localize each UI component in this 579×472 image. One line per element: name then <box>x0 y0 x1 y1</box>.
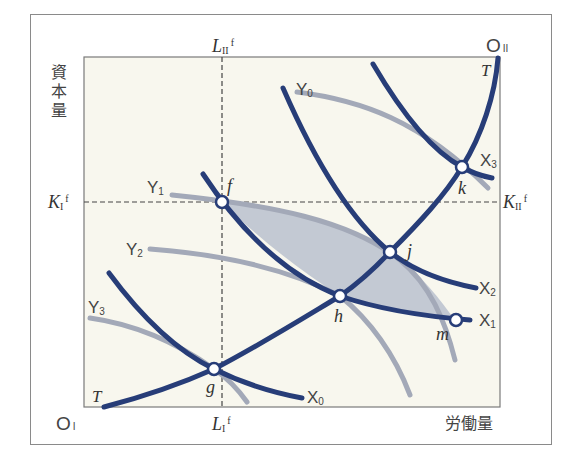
point-m <box>450 314 462 326</box>
point-j <box>384 246 396 258</box>
edgeworth-box-diagram: 資 本 量 労働量 OI OII LIIf LIf KIf KIIf T T X… <box>0 0 579 472</box>
label-L-II-f: LIIf <box>211 36 235 56</box>
point-g <box>208 363 220 375</box>
point-f <box>216 196 228 208</box>
label-point-j: j <box>405 241 412 261</box>
label-point-k: k <box>458 178 467 198</box>
point-k <box>456 161 468 173</box>
label-K-II-f: KIIf <box>502 192 528 212</box>
label-point-m: m <box>436 324 449 344</box>
origin-II-label: OII <box>486 35 508 56</box>
point-h <box>334 290 346 302</box>
label-L-I-f: LIf <box>211 414 231 434</box>
label-T-bottom: T <box>92 387 103 406</box>
label-point-h: h <box>334 306 343 326</box>
y-axis-label-char2: 本 <box>51 82 67 101</box>
y-axis-label-char1: 資 <box>51 63 67 82</box>
x-axis-label: 労働量 <box>445 414 493 433</box>
origin-I-label: OI <box>56 413 76 434</box>
label-T-top: T <box>481 61 492 80</box>
y-axis-label-char3: 量 <box>51 101 67 120</box>
label-K-I-f: KIf <box>47 192 69 212</box>
label-point-g: g <box>206 377 215 397</box>
